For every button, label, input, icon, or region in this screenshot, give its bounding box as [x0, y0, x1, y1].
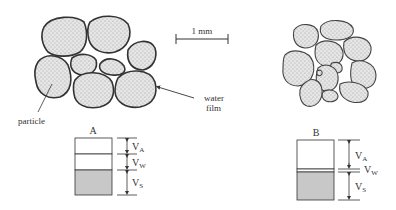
particle-cluster-a — [35, 16, 156, 108]
diagram-b-title: B — [313, 127, 320, 138]
particle-cluster-b — [283, 21, 376, 107]
vs-label-a: VS — [132, 177, 143, 190]
phase-column-a — [75, 138, 112, 195]
soil-phase-diagram: 1 mm water film particle A VA VW VS — [0, 0, 396, 210]
particle-label: particle — [18, 116, 45, 126]
solids-phase-b — [297, 172, 334, 200]
air-phase-b — [297, 140, 334, 169]
water-film-label-line2: film — [206, 103, 221, 113]
air-phase-a — [75, 138, 112, 154]
phase-column-b — [297, 140, 334, 200]
water-film-pointer — [158, 87, 194, 98]
vs-label-b: VS — [355, 181, 366, 194]
va-label-b: VA — [355, 150, 367, 163]
va-label-a: VA — [132, 141, 144, 154]
water-film-label-line1: water — [204, 93, 224, 103]
solids-phase-a — [75, 170, 112, 195]
diagram-a-title: A — [89, 125, 97, 136]
vw-label-b: VW — [364, 164, 378, 177]
water-phase-b — [297, 169, 334, 172]
vw-label-a: VW — [132, 157, 146, 170]
water-phase-a — [75, 154, 112, 170]
scale-bar-label: 1 mm — [192, 26, 213, 36]
